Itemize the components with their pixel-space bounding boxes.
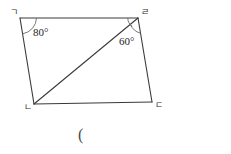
edge-d-n xyxy=(34,102,152,104)
edge-n-g xyxy=(20,18,34,104)
diagonal-n-r xyxy=(34,18,138,104)
vertex-label-g: ㄱ xyxy=(10,8,18,17)
geometry-figure-canvas: ㄱ ㄹ ㄷ ㄴ 80° 60° ( xyxy=(0,0,231,154)
vertex-label-d: ㄷ xyxy=(155,101,163,110)
angle-measure-r: 60° xyxy=(119,36,134,47)
figure-drawing xyxy=(0,0,231,154)
vertex-label-r: ㄹ xyxy=(141,8,149,17)
edge-r-d xyxy=(138,18,152,102)
caption-parenthesis: ( xyxy=(78,127,83,143)
angle-measure-g: 80° xyxy=(33,27,48,38)
vertex-label-n: ㄴ xyxy=(24,103,32,112)
